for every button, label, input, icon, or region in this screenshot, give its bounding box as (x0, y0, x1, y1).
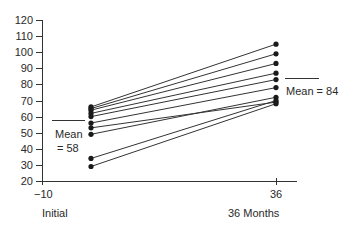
data-point (88, 120, 93, 125)
mean-label-36-months: Mean = 84 (286, 86, 338, 97)
y-ticks (36, 21, 43, 182)
x-tick-label-right: 36 (270, 189, 282, 200)
data-point (273, 61, 278, 66)
y-tick-label: 20 (21, 176, 33, 187)
y-tick-label: 120 (15, 15, 33, 26)
y-tick-label: 110 (15, 31, 33, 42)
y-tick-label: 40 (21, 144, 33, 155)
subject-line (91, 54, 276, 109)
subject-line (91, 104, 276, 167)
series-lines (88, 42, 278, 170)
data-point (273, 77, 278, 82)
subject-line (91, 101, 276, 159)
data-point (273, 101, 278, 106)
y-tick-label: 90 (21, 63, 33, 74)
data-point (273, 42, 278, 47)
subject-line (91, 44, 276, 107)
data-point (88, 132, 93, 137)
x-category-initial: Initial (42, 208, 68, 219)
subject-line (91, 102, 276, 128)
data-point (88, 156, 93, 161)
mean-label-initial-line1: Mean (55, 129, 83, 140)
data-point (88, 164, 93, 169)
mean-label-initial-line2: = 58 (57, 143, 79, 154)
x-category-36-months: 36 Months (228, 208, 279, 219)
data-point (273, 71, 278, 76)
y-tick-label: 70 (21, 96, 33, 107)
data-point (88, 114, 93, 119)
data-point (273, 85, 278, 90)
data-point (273, 51, 278, 56)
y-tick-label: 100 (15, 47, 33, 58)
y-tick-label: 80 (21, 79, 33, 90)
y-tick-label: 60 (21, 112, 33, 123)
y-tick-label: 30 (21, 160, 33, 171)
y-tick-label: 50 (21, 128, 33, 139)
x-tick-label-left: −10 (34, 189, 53, 200)
data-point (88, 125, 93, 130)
subject-line (91, 80, 276, 117)
